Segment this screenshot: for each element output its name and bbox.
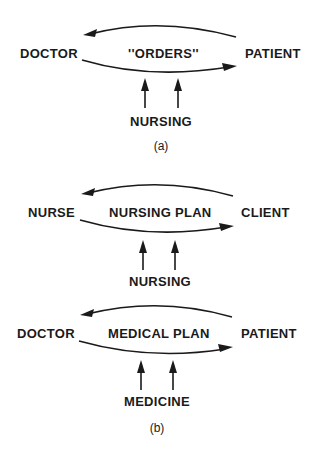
- caption-a: (a): [154, 139, 169, 153]
- diagram-b-nursing: NURSE NURSING PLAN CLIENT NURSING: [28, 185, 290, 289]
- arrow-up-icon: [137, 360, 145, 373]
- node-patient: PATIENT: [245, 46, 301, 61]
- arrow-up-icon: [141, 78, 149, 91]
- arc-doctor-to-patient: [79, 341, 225, 354]
- arrowhead-right-icon: [219, 223, 234, 231]
- node-client: CLIENT: [241, 205, 290, 220]
- arrow-up-icon: [171, 240, 179, 253]
- arrowhead-left-icon: [80, 309, 94, 317]
- arrow-up-icon: [174, 78, 182, 91]
- node-doctor: DOCTOR: [20, 46, 78, 61]
- arc-nurse-to-client: [80, 220, 226, 232]
- input-label-nursing: NURSING: [129, 274, 191, 289]
- input-label-medicine: MEDICINE: [124, 394, 190, 409]
- diagram-b-medical: DOCTOR MEDICAL PLAN PATIENT MEDICINE (b): [17, 306, 297, 435]
- center-label-nursing-plan: NURSING PLAN: [109, 205, 212, 220]
- input-label-nursing: NURSING: [130, 114, 192, 129]
- diagram-canvas: DOCTOR ''ORDERS'' PATIENT NURSING (a) NU…: [0, 0, 312, 457]
- arc-patient-to-doctor: [87, 306, 232, 317]
- node-nurse: NURSE: [28, 205, 75, 220]
- arrow-up-icon: [169, 360, 177, 373]
- arc-client-to-nurse: [88, 185, 233, 196]
- arrowhead-right-icon: [222, 63, 237, 71]
- diagram-a: DOCTOR ''ORDERS'' PATIENT NURSING (a): [20, 26, 301, 153]
- center-label-orders: ''ORDERS'': [128, 46, 199, 61]
- arc-patient-to-doctor: [90, 26, 236, 37]
- caption-b: (b): [150, 421, 165, 435]
- arrowhead-right-icon: [218, 344, 233, 352]
- node-doctor: DOCTOR: [17, 326, 75, 341]
- node-patient: PATIENT: [241, 326, 297, 341]
- arrowhead-left-icon: [81, 188, 95, 196]
- arrowhead-left-icon: [83, 29, 97, 37]
- center-label-medical-plan: MEDICAL PLAN: [108, 326, 210, 341]
- arrow-up-icon: [139, 240, 147, 253]
- arc-doctor-to-patient: [82, 60, 229, 72]
